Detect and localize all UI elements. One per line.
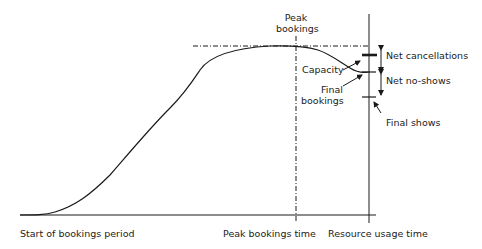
final-bookings-label-line2: bookings bbox=[301, 95, 343, 106]
final-shows-label: Final shows bbox=[386, 117, 440, 128]
final-bookings-label: Final bookings bbox=[301, 84, 343, 106]
net-cancellations-label: Net cancellations bbox=[386, 50, 468, 61]
final-shows-pointer-arrow bbox=[374, 102, 381, 113]
peak-bookings-label-line2: bookings bbox=[276, 23, 316, 34]
peak-bookings-label: Peak bookings bbox=[276, 12, 316, 34]
final-bookings-pointer-arrow bbox=[343, 75, 362, 86]
final-bookings-label-line1: Final bbox=[301, 84, 343, 95]
x-peak-time-label: Peak bookings time bbox=[223, 228, 316, 239]
capacity-label: Capacity bbox=[302, 64, 344, 75]
net-no-shows-label: Net no-shows bbox=[386, 75, 451, 86]
peak-bookings-label-line1: Peak bbox=[276, 12, 316, 23]
x-resource-time-label: Resource usage time bbox=[328, 228, 428, 239]
x-start-label: Start of bookings period bbox=[20, 228, 134, 239]
